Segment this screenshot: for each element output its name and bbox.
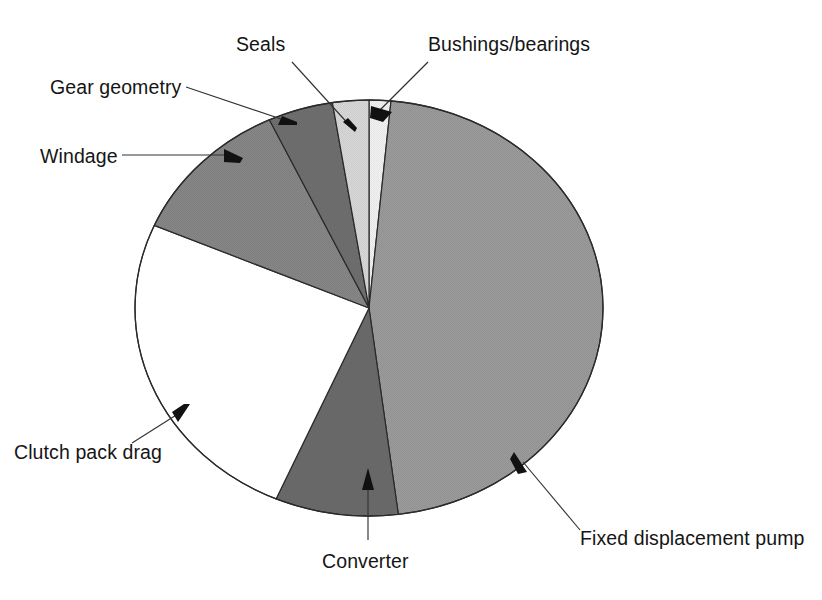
pie-chart-svg: Seals Bushings/bearings Gear geometry Wi… [0,0,822,600]
callout-gear-geometry [186,87,297,125]
pie-slice-texture [369,101,603,514]
leader-line-clutch-pack-drag [132,412,181,443]
leader-line-fixed-displacement-pump [523,462,580,530]
label-seals: Seals [236,33,285,55]
callout-windage [122,149,243,163]
label-clutch-pack-drag: Clutch pack drag [14,441,162,463]
label-fixed-displacement-pump: Fixed displacement pump [580,527,805,549]
label-bushings-bearings: Bushings/bearings [428,33,590,55]
label-gear-geometry: Gear geometry [50,76,182,98]
callout-fixed-displacement-pump [510,452,580,530]
label-converter: Converter [322,550,409,572]
leader-line-gear-geometry [186,87,290,122]
label-windage: Windage [40,145,118,167]
pie-chart-figure: Seals Bushings/bearings Gear geometry Wi… [0,0,822,600]
